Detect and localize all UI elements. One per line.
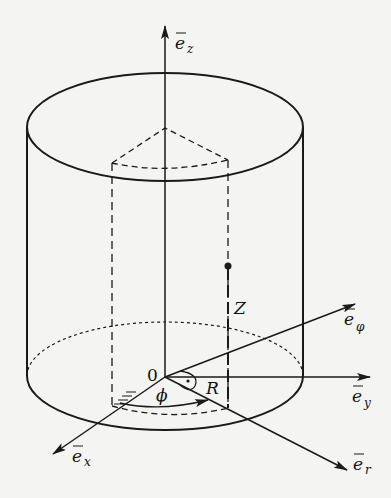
ex-label: e x: [72, 446, 91, 469]
z-label: Z: [233, 298, 247, 318]
right-angle-dot: [186, 379, 189, 382]
er-axis: [165, 377, 347, 470]
r-label: R: [205, 378, 219, 398]
svg-text:e: e: [72, 446, 82, 466]
origin-label: 0: [147, 365, 158, 385]
svg-text:e: e: [344, 309, 354, 329]
ephi-axis: [165, 304, 355, 377]
cylinder-coordinate-diagram: e z e φ e y e x e r 0 ϕ R Z: [0, 0, 391, 498]
er-label: e r: [353, 454, 372, 477]
top-sector-dashed: [112, 128, 228, 163]
bottom-sector-arc: [112, 406, 228, 415]
point-marker: [225, 263, 232, 270]
top-sector-arc: [112, 160, 228, 168]
hatch-marks: [114, 392, 136, 404]
ephi-label: e φ: [344, 309, 365, 334]
svg-text:e: e: [353, 454, 363, 474]
svg-text:e: e: [175, 33, 185, 53]
svg-text:y: y: [363, 396, 371, 410]
svg-text:φ: φ: [356, 320, 365, 334]
phi-label: ϕ: [156, 385, 168, 405]
svg-text:x: x: [84, 455, 91, 469]
svg-text:r: r: [365, 463, 372, 477]
ey-label: e y: [352, 386, 371, 410]
svg-text:z: z: [186, 42, 194, 56]
svg-text:e: e: [352, 386, 362, 406]
ez-label: e z: [175, 33, 194, 56]
